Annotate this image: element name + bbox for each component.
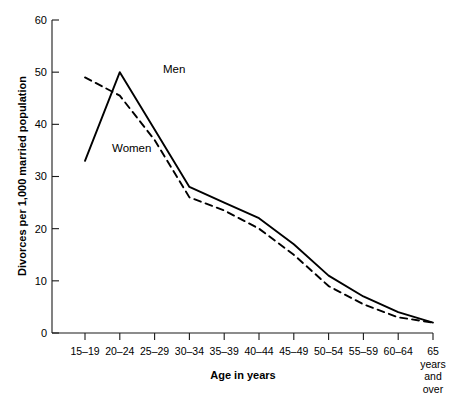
y-axis-title: Divorces per 1,000 married population	[16, 76, 28, 276]
x-axis-group: 15–1920–2425–2930–3435–3940–4445–4950–54…	[52, 333, 446, 395]
x-tick-label: 65	[427, 345, 439, 357]
x-tick-label: 30–34	[175, 345, 204, 357]
series-line-women	[85, 77, 433, 322]
x-tick-label-extra: over	[423, 383, 444, 395]
x-tick-label: 35–39	[210, 345, 239, 357]
x-tick-label: 55–59	[349, 345, 378, 357]
series-label-women: Women	[112, 142, 151, 154]
x-tick-label: 45–49	[279, 345, 308, 357]
x-tick-label-extra: years	[420, 358, 446, 370]
chart-svg: 0102030405060 Divorces per 1,000 married…	[0, 0, 461, 404]
x-tick-label: 40–44	[244, 345, 273, 357]
y-axis-tick-labels: 0102030405060	[35, 14, 47, 339]
x-axis-ticks	[85, 333, 433, 340]
y-tick-label: 30	[35, 170, 47, 182]
x-tick-label: 15–19	[70, 345, 99, 357]
x-axis-title: Age in years	[210, 369, 275, 381]
divorce-rate-line-chart: 0102030405060 Divorces per 1,000 married…	[0, 0, 461, 404]
x-tick-label: 25–29	[140, 345, 169, 357]
y-tick-label: 0	[41, 327, 47, 339]
y-axis-group: 0102030405060 Divorces per 1,000 married…	[16, 14, 59, 339]
y-tick-label: 40	[35, 118, 47, 130]
x-tick-label: 60–64	[384, 345, 413, 357]
y-axis-ticks	[52, 20, 59, 333]
x-tick-label: 50–54	[314, 345, 343, 357]
series-line-men	[85, 72, 433, 322]
y-tick-label: 10	[35, 275, 47, 287]
data-series-group	[85, 72, 433, 322]
series-label-men: Men	[163, 63, 185, 75]
x-tick-label-extra: and	[424, 370, 442, 382]
y-tick-label: 20	[35, 223, 47, 235]
y-tick-label: 60	[35, 14, 47, 26]
y-tick-label: 50	[35, 66, 47, 78]
x-tick-label: 20–24	[105, 345, 134, 357]
